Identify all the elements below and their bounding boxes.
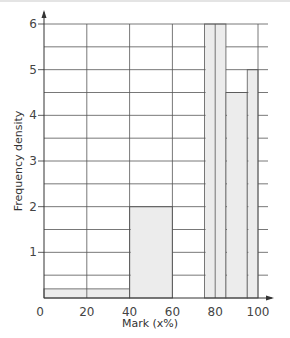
y-tick-label: 5	[29, 63, 37, 77]
x-axis-title: Mark (x%)	[122, 317, 178, 330]
y-tick-label: 3	[29, 154, 37, 168]
y-tick-label: 4	[29, 108, 37, 122]
y-tick-labels: 123456	[29, 17, 37, 259]
y-tick-label: 1	[29, 245, 37, 259]
y-axis-title: Frequency density	[12, 110, 25, 211]
x-axis-arrow-icon	[266, 296, 274, 301]
x-tick-label: 0	[36, 305, 44, 319]
y-tick-label: 6	[29, 17, 37, 31]
y-axis-arrow-icon	[42, 10, 47, 18]
histogram-bar	[226, 93, 247, 299]
x-tick-label: 100	[247, 305, 270, 319]
x-tick-label: 80	[208, 305, 223, 319]
histogram-chart: 020406080100 123456 Mark (x%) Frequency …	[0, 0, 290, 338]
histogram-bar	[130, 207, 173, 298]
histogram-bar	[247, 70, 258, 298]
x-tick-label: 20	[79, 305, 94, 319]
y-tick-label: 2	[29, 200, 37, 214]
